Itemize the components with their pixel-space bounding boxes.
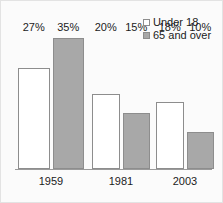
bar-rect bbox=[123, 113, 151, 169]
bar-value-label: 27% bbox=[23, 21, 45, 33]
x-axis-tick-1981: 1981 bbox=[92, 175, 150, 187]
chart-legend: Under 18 65 and over bbox=[143, 17, 211, 41]
bar-under-18-1959[interactable]: 27% bbox=[18, 36, 50, 169]
x-axis-line bbox=[15, 169, 212, 170]
legend-label: 65 and over bbox=[153, 30, 211, 41]
bar-65-and-over-2003[interactable]: 10% bbox=[187, 36, 215, 169]
bar-rect bbox=[53, 38, 85, 169]
bar-65-and-over-1981[interactable]: 15% bbox=[123, 36, 151, 169]
bar-group-1981: 20% 15% bbox=[92, 36, 150, 169]
legend-item-under-18[interactable]: Under 18 bbox=[143, 17, 211, 28]
bar-group-bars: 20% 15% bbox=[92, 36, 150, 169]
bar-group-bars: 18% 10% bbox=[156, 36, 214, 169]
legend-label: Under 18 bbox=[153, 17, 198, 28]
bar-rect bbox=[156, 102, 184, 169]
bar-under-18-1981[interactable]: 20% bbox=[92, 36, 120, 169]
bar-value-label: 20% bbox=[95, 21, 117, 33]
bar-65-and-over-1959[interactable]: 35% bbox=[53, 36, 85, 169]
bar-group-bars: 27% 35% bbox=[18, 36, 84, 169]
bar-under-18-2003[interactable]: 18% bbox=[156, 36, 184, 169]
bar-rect bbox=[92, 94, 120, 169]
x-axis-tick-2003: 2003 bbox=[156, 175, 214, 187]
bar-group-2003: 18% 10% bbox=[156, 36, 214, 169]
bar-group-1959: 27% 35% bbox=[18, 36, 84, 169]
legend-item-65-and-over[interactable]: 65 and over bbox=[143, 30, 211, 41]
grouped-bar-chart: 27% 35% 20% 15% bbox=[0, 0, 223, 203]
x-axis-tick-1959: 1959 bbox=[18, 175, 84, 187]
bar-rect bbox=[18, 68, 50, 169]
bar-value-label: 35% bbox=[57, 21, 79, 33]
legend-swatch-65-and-over-icon bbox=[143, 32, 150, 39]
bar-rect bbox=[187, 132, 215, 169]
legend-swatch-under-18-icon bbox=[143, 19, 150, 26]
